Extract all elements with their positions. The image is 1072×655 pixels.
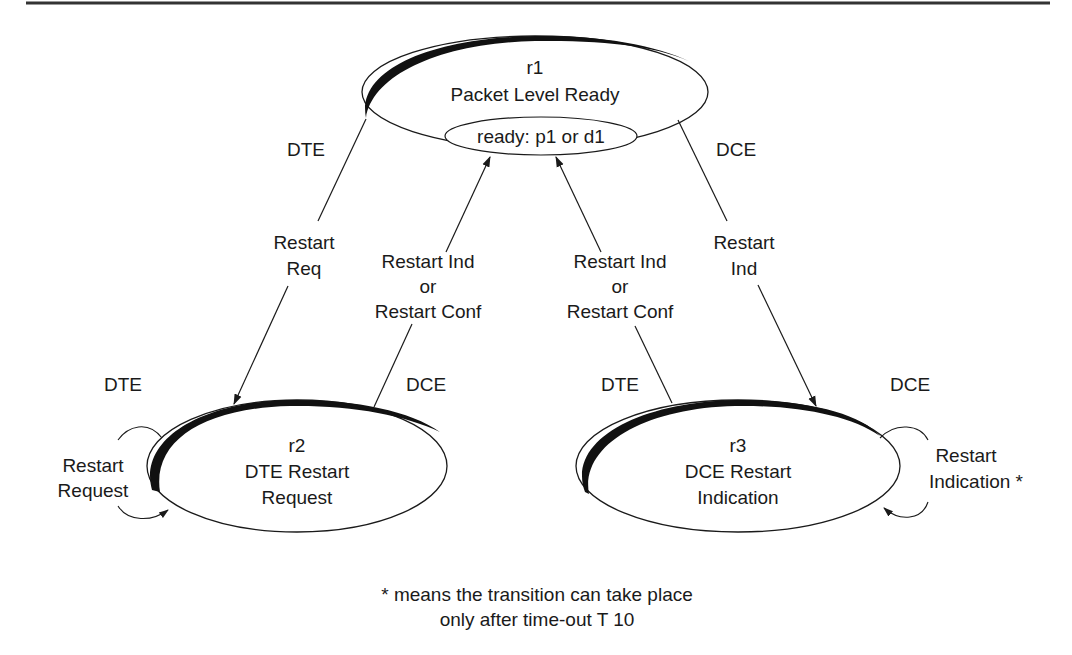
transition-r2-to-r1-label-line1: Restart Ind [382, 251, 475, 272]
transition-r1-to-r2-label-line2: Req [287, 258, 322, 279]
transition-r1-to-r3-side: DCE [716, 139, 756, 160]
transition-r2-self: DTE Restart Request [58, 374, 168, 519]
state-r3-id: r3 [730, 435, 747, 456]
transition-r1-to-r3-line-bottom [758, 285, 816, 406]
transition-r2-self-label-line2: Request [58, 480, 129, 501]
transition-r1-to-r2-label-line1: Restart [273, 232, 335, 253]
transition-r3-self-side: DCE [890, 374, 930, 395]
transition-r3-self-arc-top [880, 427, 928, 440]
transition-r1-to-r3-label-line1: Restart [713, 232, 775, 253]
state-r1-id: r1 [527, 57, 544, 78]
state-r2-name-line1: DTE Restart [245, 461, 350, 482]
state-r2: r2 DTE Restart Request [147, 400, 447, 532]
transition-r3-self: DCE Restart Indication * [880, 374, 1024, 517]
state-r2-name-line2: Request [262, 487, 333, 508]
transition-r2-self-arc-top [118, 427, 162, 440]
state-r1: r1 Packet Level Ready ready: p1 or d1 [362, 36, 708, 155]
transition-r2-self-arc-bottom [118, 506, 168, 519]
transition-r3-self-label-line2: Indication * [929, 471, 1024, 492]
transition-r1-to-r2-line-top [318, 119, 366, 221]
transition-r1-to-r3-line-top [678, 120, 727, 221]
state-r1-name: Packet Level Ready [451, 84, 620, 105]
transition-r3-self-label-line1: Restart [935, 445, 997, 466]
transition-r2-to-r1-label-line2: or [420, 276, 438, 297]
footnote-line1: * means the transition can take place [381, 584, 693, 605]
transition-r3-to-r1-label-line3: Restart Conf [567, 301, 674, 322]
transition-r2-to-r1-label-line3: Restart Conf [375, 301, 482, 322]
transition-r3-self-arc-bottom [884, 502, 928, 517]
state-r3-name-line1: DCE Restart [685, 461, 792, 482]
transition-r2-to-r1: Restart Ind or Restart Conf DCE [374, 157, 490, 407]
transition-r2-to-r1-line-top [446, 157, 490, 252]
transition-r2-self-label-line1: Restart [62, 455, 124, 476]
transition-r3-to-r1: Restart Ind or Restart Conf DTE [556, 157, 674, 403]
transition-r3-to-r1-label-line1: Restart Ind [574, 251, 667, 272]
transition-r3-to-r1-line-bottom [635, 326, 672, 403]
transition-r2-to-r1-side: DCE [406, 374, 446, 395]
transition-r3-to-r1-side: DTE [601, 374, 639, 395]
transition-r3-to-r1-label-line2: or [612, 276, 630, 297]
state-diagram: r1 Packet Level Ready ready: p1 or d1 r2… [0, 0, 1072, 655]
transition-r3-to-r1-line-top [556, 157, 601, 252]
footnote: * means the transition can take place on… [381, 584, 693, 630]
transition-r1-to-r2-side: DTE [287, 139, 325, 160]
state-r3-name-line2: Indication [697, 487, 778, 508]
transition-r1-to-r2-line-bottom [234, 286, 288, 404]
state-r3: r3 DCE Restart Indication [576, 400, 900, 532]
transition-r1-to-r3-label-line2: Ind [731, 258, 757, 279]
transition-r2-self-side: DTE [104, 374, 142, 395]
state-r2-id: r2 [289, 435, 306, 456]
state-r1-substate: ready: p1 or d1 [477, 126, 605, 147]
transition-r1-to-r3: DCE Restart Ind [678, 120, 816, 406]
footnote-line2: only after time-out T 10 [440, 609, 635, 630]
transition-r1-to-r2: DTE Restart Req [234, 119, 366, 404]
